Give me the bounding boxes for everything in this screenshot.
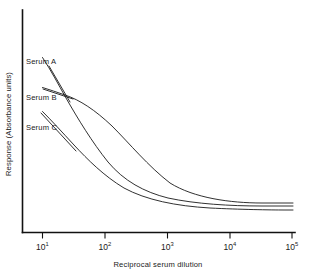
y-axis-title: Response (Absorbance units): [4, 72, 13, 176]
x-tick-exponent-1: 1: [46, 241, 49, 247]
x-tick-exponent-3: 3: [171, 241, 174, 247]
x-tick-label-3: 10: [161, 242, 171, 252]
curve-serum-b: [43, 88, 294, 204]
x-tick-label-4: 10: [224, 242, 234, 252]
x-tick-exponent-4: 4: [233, 241, 237, 247]
curve-serum-a: [43, 58, 294, 207]
chart-plot-area: 10 1 10 2 10 3 10 4 10 5 Reciprocal seru…: [0, 0, 309, 277]
leader-line-serum-c: [41, 113, 76, 151]
series-label-serum-c: Serum C: [26, 123, 57, 132]
x-tick-label-5: 10: [286, 242, 296, 252]
x-axis-title: Reciprocal serum dilution: [113, 260, 202, 269]
x-tick-exponent-5: 5: [295, 241, 298, 247]
x-tick-label-1: 10: [36, 242, 46, 252]
chart-figure: 10 1 10 2 10 3 10 4 10 5 Reciprocal seru…: [0, 0, 309, 277]
curve-serum-c: [43, 112, 294, 211]
x-tick-label-2: 10: [99, 242, 109, 252]
series-label-serum-b: Serum B: [26, 93, 57, 102]
series-label-serum-a: Serum A: [26, 57, 57, 66]
x-tick-exponent-2: 2: [108, 241, 111, 247]
